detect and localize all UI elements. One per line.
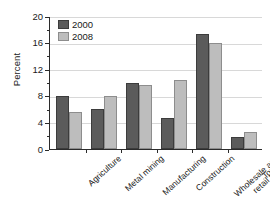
y-axis-tick-label: 8 [38, 90, 43, 102]
y-axis-tick-label: 16 [32, 37, 43, 49]
legend-label: 2000 [72, 20, 93, 30]
y-axis-tick-label: 20 [32, 11, 43, 23]
bar-group [121, 17, 156, 149]
y-axis-ticks: 048121620 [0, 17, 49, 150]
bar [139, 85, 152, 149]
bar-group [157, 17, 192, 149]
bar [56, 96, 69, 149]
x-axis-labels: AgricultureMetal miningManufacturingCons… [0, 150, 270, 215]
y-axis-tick-label: 4 [38, 117, 43, 129]
legend-swatch [58, 32, 69, 41]
bar [91, 109, 104, 149]
x-axis-label: Agriculture [86, 154, 123, 189]
x-axis-label: Wholesale and retail trade [232, 154, 270, 206]
y-axis-tick-label: 12 [32, 64, 43, 76]
bar-chart: Percent 048121620 AgricultureMetal minin… [0, 0, 270, 215]
bar [69, 112, 82, 149]
legend-label: 2008 [72, 32, 93, 42]
bar-group [227, 17, 262, 149]
bar-group [192, 17, 227, 149]
bar [161, 118, 174, 149]
bar [104, 96, 117, 149]
bar [209, 43, 222, 149]
legend-item: 2000 [58, 19, 93, 30]
x-axis-label: Metal mining [124, 154, 167, 194]
bar [196, 34, 209, 149]
bar [244, 132, 257, 149]
legend-item: 2008 [58, 31, 93, 42]
bar [231, 137, 244, 149]
bar [126, 83, 139, 149]
bar [174, 80, 187, 149]
legend-swatch [58, 20, 69, 29]
legend: 20002008 [56, 18, 95, 44]
